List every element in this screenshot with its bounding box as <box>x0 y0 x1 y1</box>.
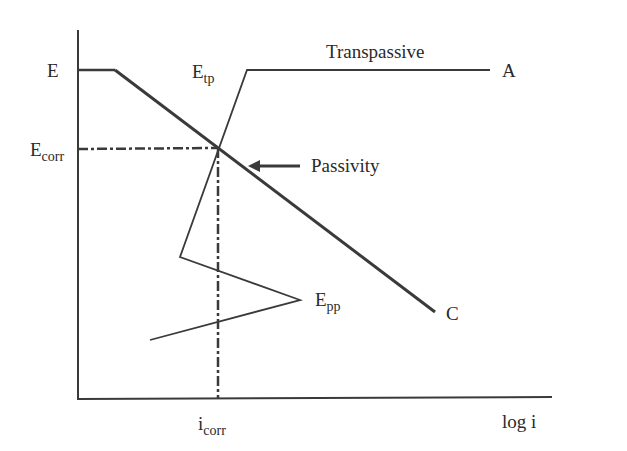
label-e-pp: Epp <box>315 289 341 314</box>
ecorr-dashed-line <box>78 148 217 149</box>
label-c: C <box>446 303 459 324</box>
label-log-i: log i <box>502 411 536 432</box>
polarization-diagram: E Ecorr Etp Transpassive A Passivity Epp… <box>0 0 627 451</box>
label-transpassive: Transpassive <box>326 41 425 62</box>
label-i-corr: icorr <box>198 413 226 438</box>
label-a: A <box>502 60 516 81</box>
label-passivity: Passivity <box>311 155 380 176</box>
label-e-corr: Ecorr <box>30 139 64 164</box>
cathodic-line <box>115 70 435 312</box>
x-axis <box>78 397 552 399</box>
label-e-tp: Etp <box>192 61 215 86</box>
label-e: E <box>47 60 59 81</box>
